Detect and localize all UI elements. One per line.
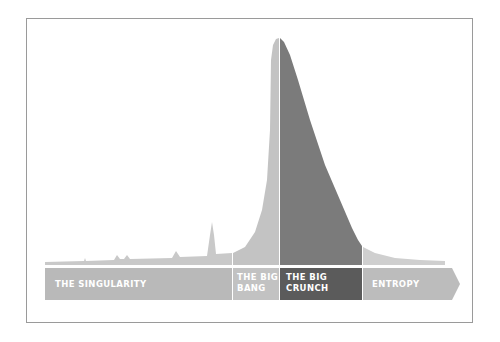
label-entropy: ENTROPY — [372, 279, 420, 290]
big-crunch-area — [280, 38, 362, 265]
label-big-bang-line1: THE BIG — [237, 272, 278, 283]
label-entropy-text: ENTROPY — [372, 279, 420, 289]
label-singularity-text: THE SINGULARITY — [55, 279, 147, 289]
label-big-crunch: THE BIG CRUNCH — [286, 272, 329, 294]
big-bang-area — [233, 38, 279, 265]
label-big-crunch-line1: THE BIG — [286, 272, 329, 283]
label-big-bang: THE BIG BANG — [237, 272, 278, 294]
label-singularity: THE SINGULARITY — [55, 279, 147, 290]
label-big-bang-line2: BANG — [237, 283, 278, 294]
label-big-crunch-line2: CRUNCH — [286, 283, 329, 294]
entropy-area — [363, 247, 445, 265]
singularity-area — [45, 222, 232, 265]
